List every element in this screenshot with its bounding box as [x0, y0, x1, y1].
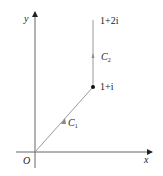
point-label-1-plus-i: 1+i: [100, 82, 113, 92]
complex-plane-diagram: y x O 1+2i 1+i C2 C1: [0, 0, 163, 176]
path-label-c1-subscript: 1: [75, 123, 78, 129]
path-label-c2-subscript: 2: [108, 57, 111, 63]
point-1-plus-i: [91, 85, 95, 89]
path-label-c1-name: C: [68, 117, 75, 128]
diagram-canvas: [0, 0, 163, 176]
path-label-c2: C2: [101, 52, 111, 63]
path-label-c1: C1: [68, 118, 78, 129]
point-label-1-plus-2i: 1+2i: [100, 16, 118, 26]
c1-direction-arrow-icon: [61, 118, 66, 124]
origin-label: O: [23, 156, 30, 166]
y-axis-label: y: [24, 14, 28, 24]
x-axis-label: x: [144, 155, 148, 165]
c2-direction-arrow-icon: [92, 53, 95, 58]
path-label-c2-name: C: [101, 51, 108, 62]
